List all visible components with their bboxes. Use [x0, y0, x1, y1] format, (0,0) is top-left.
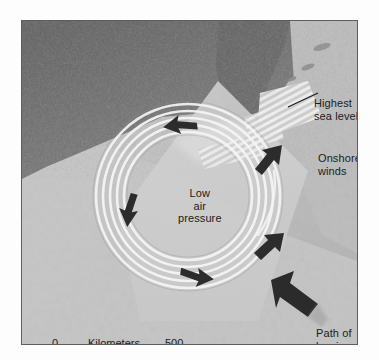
- map-plate: Highest sea level Onshore winds Path of …: [21, 20, 358, 345]
- scale-max-label: 500: [165, 337, 183, 345]
- scale-bar: 0 Kilometers 500: [52, 337, 192, 345]
- label-highest-sea-level: Highest sea level: [314, 97, 358, 122]
- scale-min-label: 0: [52, 337, 58, 345]
- label-onshore-winds: Onshore winds: [318, 152, 358, 177]
- label-path-of-hurricane: Path of hurricane: [316, 327, 358, 345]
- hurricane-diagram-figure: Highest sea level Onshore winds Path of …: [0, 0, 379, 360]
- map-canvas: [22, 21, 357, 344]
- label-low-air-pressure: Low air pressure: [178, 187, 222, 225]
- scale-units-label: Kilometers: [88, 337, 140, 345]
